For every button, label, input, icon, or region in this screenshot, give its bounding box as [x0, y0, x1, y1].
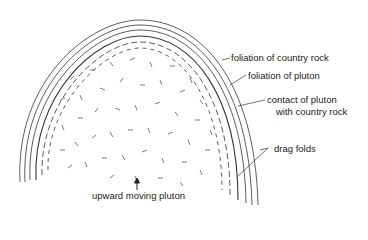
pluton-crystals — [60, 58, 212, 186]
leader-foliation-country — [222, 58, 230, 60]
label-contact-line2: with country rock — [276, 106, 347, 117]
leader-foliation-pluton — [230, 75, 246, 85]
country-rock-arc-1 — [20, 20, 258, 205]
label-drag-folds: drag folds — [274, 143, 316, 154]
country-rock-arc-3 — [30, 30, 246, 203]
label-foliation-pluton: foliation of pluton — [248, 70, 320, 81]
pluton-contact — [36, 36, 238, 200]
leader-contact — [238, 100, 265, 106]
label-upward-moving-pluton: upward moving pluton — [92, 190, 185, 201]
label-foliation-country-rock: foliation of country rock — [231, 52, 329, 63]
label-contact-line1: contact of pluton — [267, 94, 337, 105]
pluton-foliation-arc — [42, 42, 230, 195]
pluton-foliation-arc-2 — [48, 48, 222, 190]
upward-arrow-icon — [135, 178, 140, 190]
